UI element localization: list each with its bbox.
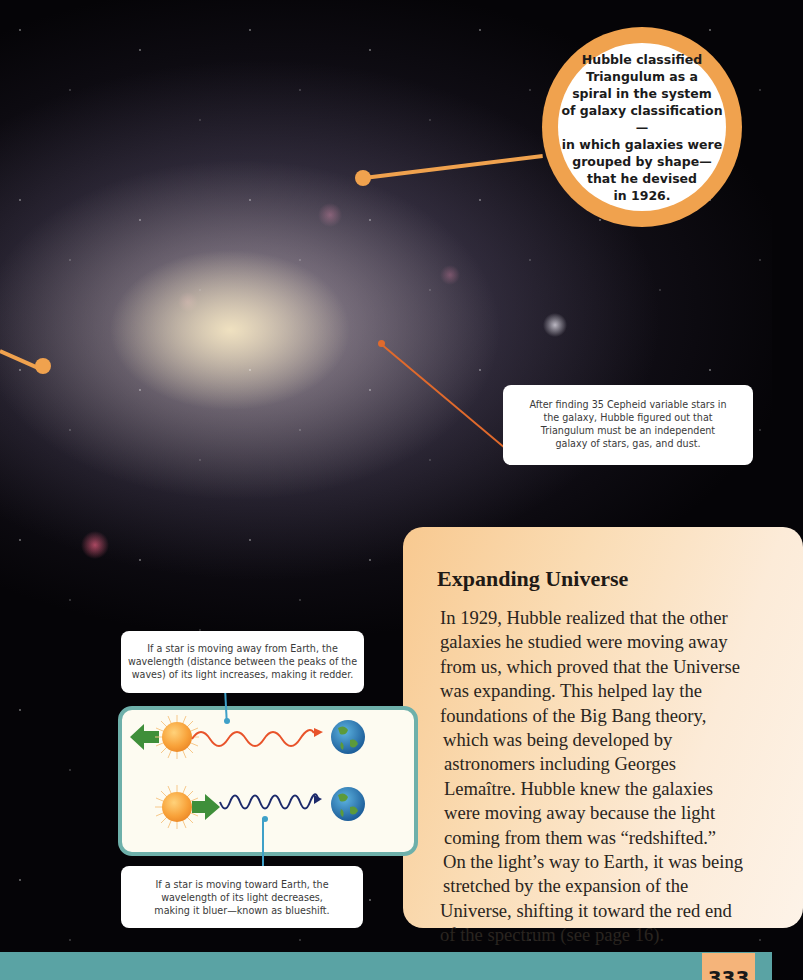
bubble-line: in 1926. xyxy=(560,187,724,204)
article-title: Expanding Universe xyxy=(437,566,628,592)
article-line: Lemaître. Hubble knew the galaxies xyxy=(440,777,775,801)
article-line: In 1929, Hubble realized that the other xyxy=(440,606,775,630)
red-wave xyxy=(192,730,314,746)
blueshift-row xyxy=(155,785,365,829)
classification-bubble: Hubble classified Triangulum as a spiral… xyxy=(558,43,726,211)
bubble-line: of galaxy classification— xyxy=(560,102,724,136)
page-number: 333 xyxy=(702,966,755,980)
bubble-pointer-dot xyxy=(355,170,371,186)
move-toward-arrow-icon xyxy=(192,794,220,820)
caption-line: wavelength of its light decreases, xyxy=(121,891,363,904)
red-wave-arrowhead-icon xyxy=(314,728,323,737)
caption-line: galaxy of stars, gas, and dust. xyxy=(503,437,753,450)
redshift-blueshift-diagram xyxy=(118,706,418,856)
page-number-tab: 333 xyxy=(702,953,755,980)
redshift-row xyxy=(130,715,365,759)
caption-line: the galaxy, Hubble figured out that xyxy=(503,411,753,424)
caption-line: Triangulum must be an independent xyxy=(503,424,753,437)
article-body: In 1929, Hubble realized that the other … xyxy=(440,606,775,948)
caption-line: making it bluer—known as blueshift. xyxy=(121,904,363,917)
bubble-line: in which galaxies were xyxy=(560,136,724,153)
left-pointer-dot xyxy=(35,358,51,374)
caption-line: wavelength (distance between the peaks o… xyxy=(121,655,364,668)
cepheid-pointer-dot xyxy=(378,340,385,347)
blue-wave xyxy=(220,794,318,808)
bubble-line: grouped by shape— xyxy=(560,153,724,170)
article-line: Universe, shifting it toward the red end xyxy=(440,899,775,923)
article-line: On the light’s way to Earth, it was bein… xyxy=(440,850,775,874)
article-line: of the spectrum (see page 16). xyxy=(440,923,775,947)
article-line: coming from them was “redshifted.” xyxy=(440,826,775,850)
redshift-caption: If a star is moving away from Earth, the… xyxy=(121,631,364,693)
doppler-diagram-svg xyxy=(122,710,414,852)
article-line: astronomers including Georges xyxy=(440,752,775,776)
article-line: foundations of the Big Bang theory, xyxy=(440,704,775,728)
blueshift-leader-line xyxy=(262,818,264,868)
earth-icon xyxy=(331,787,365,821)
article-line: stretched by the expansion of the xyxy=(440,874,775,898)
caption-line: If a star is moving toward Earth, the xyxy=(121,878,363,891)
move-away-arrow-icon xyxy=(130,724,159,750)
article-line: galaxies he studied were moving away xyxy=(440,630,775,654)
cepheid-caption: After finding 35 Cepheid variable stars … xyxy=(503,385,753,465)
bubble-line: spiral in the system xyxy=(560,85,724,102)
earth-icon xyxy=(331,720,365,754)
caption-line: If a star is moving away from Earth, the xyxy=(121,642,364,655)
article-line: which was being developed by xyxy=(440,728,775,752)
caption-line: After finding 35 Cepheid variable stars … xyxy=(503,398,753,411)
article-line: from us, which proved that the Universe xyxy=(440,655,775,679)
blueshift-caption: If a star is moving toward Earth, the wa… xyxy=(121,866,363,928)
footer-band xyxy=(0,952,772,980)
bubble-line: Hubble classified xyxy=(560,51,724,68)
bubble-line: that he devised xyxy=(560,170,724,187)
caption-line: waves) of its light increases, making it… xyxy=(121,668,364,681)
article-line: were moving away because the light xyxy=(440,801,775,825)
bubble-line: Triangulum as a xyxy=(560,68,724,85)
article-line: was expanding. This helped lay the xyxy=(440,679,775,703)
classification-bubble-text: Hubble classified Triangulum as a spiral… xyxy=(560,51,724,204)
